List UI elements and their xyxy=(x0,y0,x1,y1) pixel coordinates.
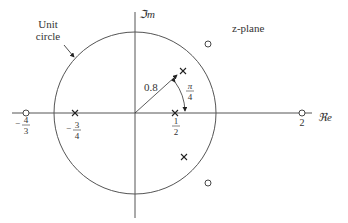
angle-label-den: 4 xyxy=(188,92,193,102)
tick-label-2: 2 xyxy=(300,117,305,128)
svg-text:3: 3 xyxy=(75,120,80,130)
tick-label-neg-4-3: − 4 3 xyxy=(15,115,30,136)
tick-label-neg-3-4: − 3 4 xyxy=(66,120,81,141)
pole-marker-upper xyxy=(180,68,186,74)
unit-circle-label-line2: circle xyxy=(36,30,61,42)
zero-marker-lower xyxy=(205,180,211,186)
svg-text:4: 4 xyxy=(24,115,29,125)
z-plane-diagram: Unit circle ℑm ℜe z-plane 0.8 π 4 − 4 3 … xyxy=(0,0,348,223)
svg-text:2: 2 xyxy=(174,127,179,137)
angle-label-num: π xyxy=(188,81,193,91)
plane-title: z-plane xyxy=(232,22,264,34)
angle-arc xyxy=(175,82,185,111)
unit-circle-leader-arrow xyxy=(64,45,74,57)
pole-marker-lower xyxy=(181,154,187,160)
radius-label: 0.8 xyxy=(144,81,158,93)
imag-axis-label: ℑm xyxy=(139,8,155,20)
svg-text:−: − xyxy=(15,118,20,128)
unit-circle-label-line1: Unit xyxy=(38,18,58,30)
real-axis-label: ℜe xyxy=(318,111,332,123)
tick-label-1-2: 1 2 xyxy=(172,116,180,137)
svg-text:4: 4 xyxy=(75,131,80,141)
svg-text:1: 1 xyxy=(174,116,179,126)
zero-marker-upper xyxy=(205,41,211,47)
svg-text:−: − xyxy=(66,123,71,133)
zero-marker-2 xyxy=(299,110,305,116)
svg-text:3: 3 xyxy=(24,126,29,136)
